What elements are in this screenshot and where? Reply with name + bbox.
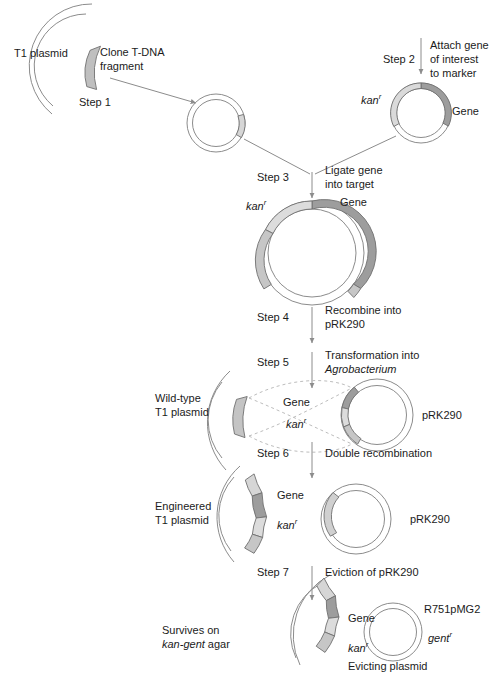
label-gene-step2: Gene	[452, 105, 479, 118]
step2-action-line3: to marker	[430, 67, 476, 80]
step5-number: Step 5	[257, 356, 289, 369]
step4-action-line2: pRK290	[325, 318, 365, 331]
kan-text: kan	[361, 94, 379, 106]
kan-text: kan	[277, 519, 295, 531]
step1-action-line1: Clone T-DNA	[100, 46, 165, 59]
kan-superscript: r	[304, 416, 307, 425]
kan-text: kan	[246, 200, 264, 212]
label-gene-engineered: Gene	[277, 489, 304, 502]
diagram-canvas: T1 plasmid Clone T-DNA fragment Step 1 S…	[0, 0, 495, 673]
arrow-step1	[110, 78, 196, 103]
step2-action-line2: of interest	[430, 53, 478, 66]
kan-gent-text: kan-gent	[162, 638, 205, 650]
step6-number: Step 6	[257, 447, 289, 460]
plasmid-engineered-t1	[217, 466, 267, 562]
step5-action-line2: Agrobacterium	[325, 363, 397, 376]
kan-text: kan	[286, 418, 304, 430]
label-prk290-recombinant: pRK290	[422, 409, 462, 422]
label-kan-recombinant: kanr	[286, 414, 306, 431]
plasmid-cloned-fragment	[187, 94, 245, 152]
plasmid-prk290-recombinant	[341, 379, 413, 451]
label-kan-engineered: kanr	[277, 515, 297, 532]
label-wild-type-line1: Wild-type	[155, 392, 201, 405]
step6-action-line1: Double recombination	[325, 447, 432, 460]
kan-superscript: r	[295, 517, 298, 526]
step3-action-line1: Ligate gene	[325, 164, 383, 177]
step7-number: Step 7	[257, 566, 289, 579]
plasmid-ligated-target	[255, 200, 376, 305]
step4-action-line1: Recombine into	[325, 304, 401, 317]
step5-action-line1: Transformation into	[325, 349, 419, 362]
gent-superscript: r	[449, 630, 452, 639]
step1-number: Step 1	[79, 96, 111, 109]
plasmid-gene-marker	[391, 83, 452, 143]
step3-number: Step 3	[257, 171, 289, 184]
label-gene-final: Gene	[348, 612, 375, 625]
label-t1-plasmid: T1 plasmid	[14, 47, 68, 60]
step2-number: Step 2	[383, 53, 415, 66]
gent-text: gent	[428, 632, 449, 644]
label-kan-marker-step3: kanr	[246, 196, 266, 213]
agar-text: agar	[205, 638, 230, 650]
kan-superscript: r	[379, 92, 382, 101]
label-r751pmg2: R751pMG2	[424, 603, 480, 616]
label-gene-recombinant: Gene	[283, 396, 310, 409]
plasmid-wild-type-t1	[207, 371, 247, 470]
label-gent-marker: gentr	[428, 628, 452, 645]
label-prk290-empty: pRK290	[410, 513, 450, 526]
label-engineered-line2: T1 plasmid	[155, 514, 209, 527]
step4-number: Step 4	[257, 311, 289, 324]
plasmid-prk290-empty	[321, 484, 391, 554]
label-engineered-line1: Engineered	[155, 500, 211, 513]
label-wild-type-line2: T1 plasmid	[155, 406, 209, 419]
step7-action-line1: Eviction of pRK290	[325, 566, 419, 579]
kan-superscript: r	[264, 198, 267, 207]
label-evicting-plasmid: Evicting plasmid	[348, 660, 427, 673]
label-gene-step3: Gene	[340, 196, 367, 209]
step2-action-line1: Attach gene	[430, 39, 489, 52]
label-kan-final: kanr	[348, 638, 368, 655]
step3-action-line2: into target	[325, 178, 374, 191]
label-survives-line1: Survives on	[162, 624, 219, 637]
label-kan-marker-step2: kanr	[361, 90, 381, 107]
label-survives-line2: kan-gent agar	[162, 638, 230, 651]
kan-text: kan	[348, 642, 366, 654]
step1-action-line2: fragment	[100, 60, 143, 73]
plasmid-final-engineered-t1	[291, 575, 339, 665]
kan-superscript: r	[366, 640, 369, 649]
diagram-graphics	[0, 0, 495, 673]
